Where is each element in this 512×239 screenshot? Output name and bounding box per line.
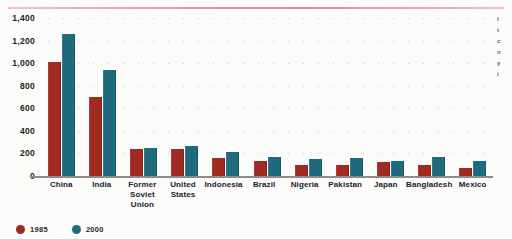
bar-2000 (473, 161, 486, 176)
bar-group (411, 18, 452, 176)
bar-group (41, 18, 82, 176)
circle-swatch-2000 (72, 225, 81, 234)
bar-1985 (377, 162, 390, 176)
bar-2000 (226, 152, 239, 176)
legend-item[interactable]: 1985 (16, 225, 48, 234)
bar-2000 (309, 159, 322, 176)
circle-swatch-1985 (16, 225, 25, 234)
bar-2000 (432, 157, 445, 176)
category-label: Nigeria (284, 180, 325, 210)
bar-group (205, 18, 246, 176)
category-label: UnitedStates (163, 180, 204, 210)
bar-group (370, 18, 411, 176)
legend-label: 2000 (86, 225, 104, 234)
bar-2000 (185, 146, 198, 176)
bar-1985 (212, 158, 225, 176)
y-tick-label: 1,000 (12, 58, 41, 68)
category-label: Indonesia (203, 180, 244, 210)
y-tick-label: 1,400 (12, 13, 41, 23)
bar-group (246, 18, 287, 176)
legend-item[interactable]: 2000 (72, 225, 104, 234)
bar-group (123, 18, 164, 176)
bar-2000 (62, 34, 75, 176)
y-tick-label: 600 (20, 103, 41, 113)
bar-1985 (295, 165, 308, 176)
x-axis-line (30, 176, 493, 178)
category-label: Brazil (244, 180, 285, 210)
bar-group (164, 18, 205, 176)
y-tick-label: 400 (20, 126, 41, 136)
bar-2000 (391, 161, 404, 176)
category-label: Bangladesh (406, 180, 452, 210)
bar-group (329, 18, 370, 176)
bar-2000 (350, 158, 363, 176)
y-tick-label: 200 (20, 148, 41, 158)
category-label: China (41, 180, 82, 210)
top-divider-rule (8, 7, 504, 9)
bar-1985 (89, 97, 102, 176)
bar-1985 (171, 149, 184, 176)
bar-1985 (48, 62, 61, 176)
category-label: India (82, 180, 123, 210)
bar-1985 (418, 165, 431, 176)
legend-label: 1985 (30, 225, 48, 234)
bar-2000 (268, 157, 281, 176)
bar-series-container (41, 18, 493, 176)
category-label: Pakistan (325, 180, 366, 210)
category-label: Japan (366, 180, 407, 210)
category-labels: ChinaIndiaFormerSovietUnionUnitedStatesI… (41, 180, 493, 210)
chart-page: Itcnyi 1,4001,2001,0008006004002000 Chin… (0, 0, 512, 239)
y-tick-label: 800 (20, 81, 41, 91)
bar-group (452, 18, 493, 176)
bar-group (82, 18, 123, 176)
category-label: Mexico (452, 180, 493, 210)
bar-group (288, 18, 329, 176)
bar-1985 (254, 161, 267, 176)
chart-legend: 19852000 (16, 225, 122, 234)
bar-2000 (103, 70, 116, 176)
side-text-column: Itcnyi (497, 14, 512, 114)
bar-1985 (459, 168, 472, 176)
category-label: FormerSovietUnion (122, 180, 163, 210)
bar-2000 (144, 148, 157, 176)
bar-1985 (130, 149, 143, 176)
plot-area: 1,4001,2001,0008006004002000 (41, 18, 493, 176)
y-tick-label: 1,200 (12, 36, 41, 46)
bar-1985 (336, 165, 349, 176)
